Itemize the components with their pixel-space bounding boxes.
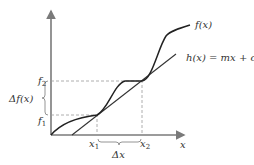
h-of-x-line (72, 54, 176, 135)
f2-label: f2 (37, 75, 46, 88)
f1-label: f1 (37, 115, 46, 128)
x-axis-label: x (180, 139, 186, 150)
delta-f-label: Δf(x) (8, 93, 33, 104)
delta-x-brace (98, 139, 141, 145)
f-of-x-label: f(x) (194, 19, 212, 30)
diagram-canvas: f(x) h(x) = mx + c f2 f1 Δf(x) x1 x2 Δx … (0, 0, 254, 165)
x2-label: x2 (140, 138, 150, 151)
delta-x-label: Δx (111, 149, 125, 160)
f-of-x-curve (51, 25, 190, 135)
x1-label: x1 (89, 138, 99, 151)
f1-x1-guide (51, 115, 97, 135)
f2-x2-guide (51, 81, 142, 135)
h-of-x-label: h(x) = mx + c (186, 52, 254, 63)
